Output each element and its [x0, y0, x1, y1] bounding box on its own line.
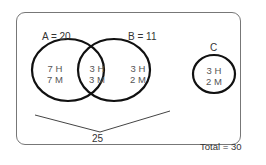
- a-only-m: 7 M: [45, 74, 65, 85]
- region-a-only: 7 H 7 M: [45, 63, 65, 85]
- region-c-only: 3 H 2 M: [204, 65, 224, 87]
- a-and-b-m: 3 M: [87, 74, 107, 85]
- b-only-h: 3 H: [128, 63, 148, 74]
- total-label: Total = 30: [200, 141, 241, 152]
- c-only-h: 3 H: [204, 65, 224, 76]
- b-only-m: 2 M: [128, 74, 148, 85]
- c-only-m: 2 M: [204, 76, 224, 87]
- region-a-and-b: 3 H 3 M: [87, 63, 107, 85]
- set-b-label: B = 11: [128, 31, 156, 42]
- a-and-b-h: 3 H: [87, 63, 107, 74]
- region-b-only: 3 H 2 M: [128, 63, 148, 85]
- set-a-label: A = 20: [42, 31, 71, 42]
- brace-lines: [35, 111, 170, 132]
- brace-label: 25: [92, 133, 103, 144]
- a-only-h: 7 H: [45, 63, 65, 74]
- set-c-label: C: [210, 42, 217, 53]
